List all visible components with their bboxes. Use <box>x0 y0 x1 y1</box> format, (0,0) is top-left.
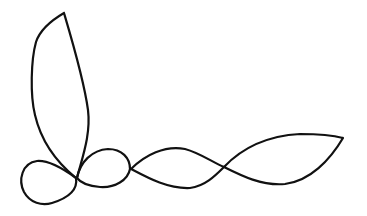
continuous-line-art <box>0 0 367 216</box>
first-lens <box>131 148 224 188</box>
line-drawing-canvas <box>0 0 367 216</box>
left-loop <box>21 161 76 204</box>
second-lens <box>224 134 343 184</box>
middle-loop <box>77 149 130 187</box>
leaf-loop <box>32 13 89 178</box>
